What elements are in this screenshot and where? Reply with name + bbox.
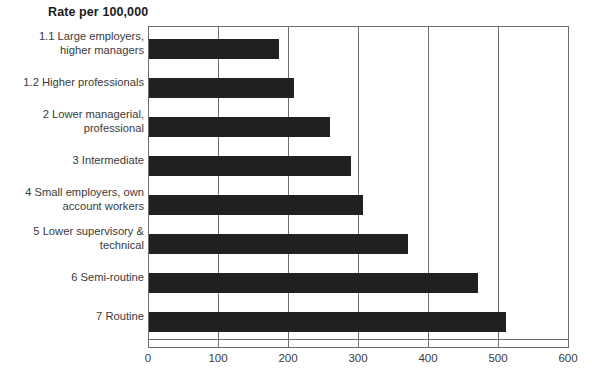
x-axis-tick bbox=[358, 340, 359, 348]
chart-title: Rate per 100,000 bbox=[48, 5, 148, 19]
x-axis-tick bbox=[498, 340, 499, 348]
bar bbox=[149, 195, 363, 215]
x-axis-tick-label: 400 bbox=[418, 352, 437, 364]
category-label: 1.1 Large employers, higher managers bbox=[0, 30, 144, 57]
x-axis-tick-label: 200 bbox=[278, 352, 297, 364]
bar bbox=[149, 39, 279, 59]
category-label: 1.2 Higher professionals bbox=[0, 76, 144, 90]
bar bbox=[149, 156, 351, 176]
bar bbox=[149, 78, 294, 98]
category-label: 4 Small employers, own account workers bbox=[0, 186, 144, 213]
bars-layer bbox=[149, 27, 568, 339]
x-axis-tick bbox=[568, 340, 569, 348]
x-axis-tick-label: 100 bbox=[208, 352, 227, 364]
bar bbox=[149, 312, 506, 332]
bar bbox=[149, 273, 478, 293]
category-label: 6 Semi-routine bbox=[0, 271, 144, 285]
category-label: 7 Routine bbox=[0, 310, 144, 324]
category-label: 3 Intermediate bbox=[0, 154, 144, 168]
x-axis-tick bbox=[428, 340, 429, 348]
bar bbox=[149, 234, 408, 254]
x-axis-tick-label: 600 bbox=[558, 352, 577, 364]
x-axis-tick-label: 300 bbox=[348, 352, 367, 364]
x-axis-tick bbox=[288, 340, 289, 348]
x-axis-tick-label: 0 bbox=[145, 352, 151, 364]
category-label: 2 Lower managerial, professional bbox=[0, 108, 144, 135]
bar-chart: Rate per 100,000 1.1 Large employers, hi… bbox=[0, 0, 592, 378]
x-axis-tick bbox=[148, 340, 149, 348]
category-label: 5 Lower supervisory & technical bbox=[0, 225, 144, 252]
category-axis-labels: 1.1 Large employers, higher managers 1.2… bbox=[0, 26, 144, 340]
bar bbox=[149, 117, 330, 137]
x-axis-tick bbox=[218, 340, 219, 348]
x-axis-tick-label: 500 bbox=[488, 352, 507, 364]
